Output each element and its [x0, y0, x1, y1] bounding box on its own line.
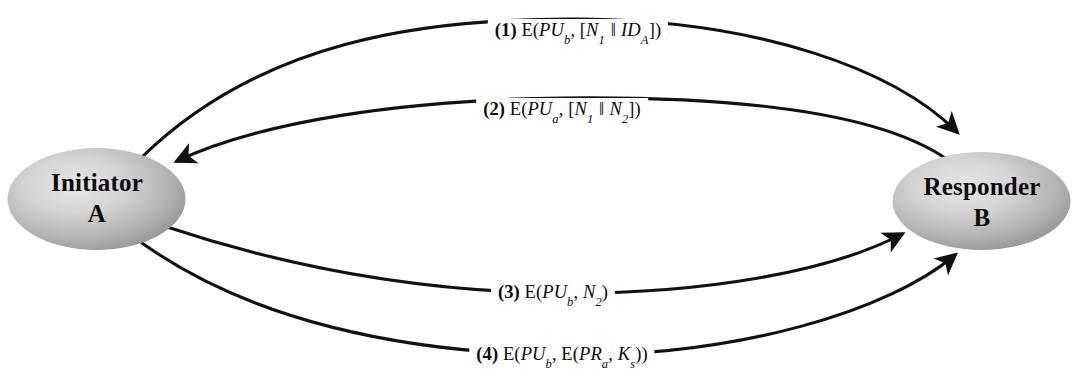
message-1-number: (1) — [495, 20, 517, 40]
message-2-arg1: N — [574, 99, 586, 119]
initiator-node-ellipse — [8, 148, 186, 250]
message-4-label: (4) E(PUb, E(PRa, Ks)) — [469, 343, 654, 367]
message-4-prefix: E( — [503, 344, 521, 364]
message-3-key-subscript: b — [567, 295, 573, 309]
message-3-body-close: ) — [602, 282, 608, 302]
message-3-arg1-subscript: 2 — [595, 295, 601, 309]
message-1-body-close: ]) — [649, 20, 662, 40]
message-2-number: (2) — [483, 99, 505, 119]
message-4-arg2: K — [618, 344, 630, 364]
message-3-key: PU — [542, 282, 567, 302]
message-4-arg1: PR — [579, 344, 602, 364]
message-1-arg1: N — [586, 20, 598, 40]
responder-node-ellipse — [893, 152, 1071, 250]
message-3-prefix: E( — [525, 282, 543, 302]
message-4-body-open: , E( — [552, 344, 579, 364]
message-4-arg1-subscript: a — [602, 357, 608, 371]
message-2-body-open: , [ — [559, 99, 575, 119]
message-4-key: PU — [521, 344, 546, 364]
message-2-key-subscript: a — [552, 112, 558, 126]
message-2-body-close: ]) — [628, 99, 641, 119]
message-2-prefix: E( — [510, 99, 528, 119]
message-1-arg2: ID — [621, 20, 641, 40]
message-1-label: (1) E(PUb, [N1 ‖ IDA]) — [488, 19, 668, 43]
message-2-arg2-subscript: 2 — [622, 112, 628, 126]
message-3-arg1: N — [583, 282, 595, 302]
message-4-key-subscript: b — [546, 357, 552, 371]
message-1-arg2-subscript: A — [641, 33, 649, 47]
protocol-diagram: Initiator A Responder B (1) E(PUb, [N1 ‖… — [0, 0, 1079, 391]
message-1-key-subscript: b — [564, 33, 570, 47]
message-3-label: (3) E(PUb, N2) — [491, 281, 615, 305]
diagram-canvas — [0, 0, 1079, 391]
message-2-label: (2) E(PUa, [N1 ‖ N2]) — [476, 98, 648, 122]
message-3-body-open: , — [573, 282, 582, 302]
message-4-arg2-subscript: s — [630, 357, 635, 371]
message-4-body-close: )) — [635, 344, 648, 364]
message-2-arg1-subscript: 1 — [587, 112, 593, 126]
message-1-separator: ‖ — [610, 20, 617, 40]
message-2-key: PU — [527, 99, 552, 119]
message-4-mid: , — [608, 344, 617, 364]
message-2-arg2: N — [609, 99, 621, 119]
message-2-separator: ‖ — [598, 99, 605, 119]
message-1-body-open: , [ — [570, 20, 586, 40]
message-3-number: (3) — [498, 282, 520, 302]
message-1-prefix: E( — [521, 20, 539, 40]
message-1-key: PU — [539, 20, 564, 40]
message-1-arg1-subscript: 1 — [599, 33, 605, 47]
message-4-number: (4) — [476, 344, 498, 364]
